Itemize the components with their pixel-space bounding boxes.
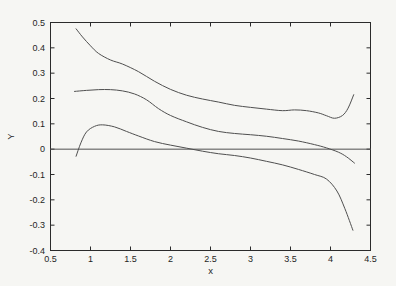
y-tick-label: 0.5 <box>32 18 45 28</box>
y-tick-label: 0.3 <box>32 68 45 78</box>
y-tick-label: 0.1 <box>32 119 45 129</box>
x-tick-label: 1 <box>88 254 93 264</box>
x-tick-label: 2 <box>168 254 173 264</box>
y-tick-label: -0.1 <box>29 170 45 180</box>
x-tick-label: 3.5 <box>284 254 297 264</box>
y-tick-labels: -0.4-0.3-0.2-0.100.10.20.30.40.5 <box>29 18 45 256</box>
x-tick-label: 3 <box>248 254 253 264</box>
y-axis-label: Y <box>5 133 16 140</box>
x-ticks <box>51 23 371 251</box>
y-tick-label: -0.2 <box>29 195 45 205</box>
plot-border <box>51 23 371 251</box>
x-tick-label: 2.5 <box>204 254 217 264</box>
figure: 0.511.522.533.544.5 -0.4-0.3-0.2-0.100.1… <box>0 0 396 286</box>
chart-canvas: 0.511.522.533.544.5 -0.4-0.3-0.2-0.100.1… <box>0 0 396 286</box>
x-axis-label: x <box>208 265 213 276</box>
y-tick-label: 0.2 <box>32 94 45 104</box>
curve-lower-confidence-band <box>76 125 353 230</box>
x-tick-label: 0.5 <box>44 254 57 264</box>
curve-upper-confidence-band <box>76 29 354 118</box>
y-tick-label: 0 <box>40 144 45 154</box>
y-tick-label: -0.3 <box>29 220 45 230</box>
y-tick-label: -0.4 <box>29 246 45 256</box>
curve-fitted-curve <box>75 90 355 164</box>
x-tick-labels: 0.511.522.533.544.5 <box>44 254 377 264</box>
x-tick-label: 1.5 <box>124 254 137 264</box>
x-tick-label: 4 <box>328 254 333 264</box>
y-ticks <box>51 23 371 251</box>
curves <box>51 29 371 230</box>
x-tick-label: 4.5 <box>364 254 377 264</box>
y-tick-label: 0.4 <box>32 43 45 53</box>
